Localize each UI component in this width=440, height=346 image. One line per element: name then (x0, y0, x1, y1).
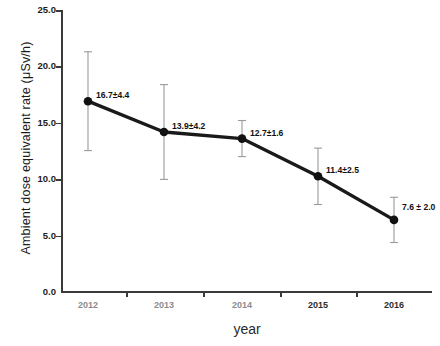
chart-figure: Ambient dose equivalent rate (μSv/h) 25.… (0, 0, 440, 346)
data-label-2015: 11.4±2.5 (326, 165, 359, 175)
data-point-2015 (314, 172, 323, 181)
data-label-2016: 7.6 ± 2.0 (402, 202, 435, 212)
x-axis-title: year (62, 321, 432, 337)
data-point-2012 (84, 97, 93, 106)
data-point-2016 (390, 216, 399, 225)
data-point-2014 (238, 134, 247, 143)
series-markers (84, 97, 399, 224)
data-label-2013: 13.9±4.2 (172, 121, 205, 131)
error-bar-caps (84, 52, 398, 243)
series-line (88, 101, 394, 220)
error-bars (88, 52, 394, 243)
data-label-2014: 12.7±1.6 (250, 128, 283, 138)
caption-fragment (0, 340, 440, 346)
data-point-2013 (160, 128, 169, 137)
plot-area (0, 0, 440, 346)
data-label-2012: 16.7±4.4 (96, 90, 129, 100)
